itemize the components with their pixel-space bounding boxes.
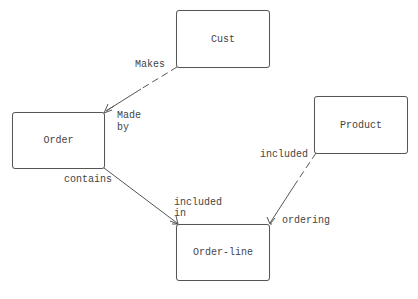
relationship-order-orderline bbox=[104, 168, 178, 224]
entity-order[interactable]: Order bbox=[12, 112, 105, 169]
entity-cust[interactable]: Cust bbox=[176, 10, 270, 68]
entity-cust-label: Cust bbox=[211, 34, 235, 45]
label-included-product: included bbox=[260, 149, 308, 161]
label-contains: contains bbox=[64, 174, 112, 186]
label-made: Made bbox=[117, 110, 141, 122]
entity-product-label: Product bbox=[340, 120, 382, 131]
entity-order-line[interactable]: Order-line bbox=[176, 224, 270, 281]
label-by: by bbox=[117, 122, 129, 134]
entity-product[interactable]: Product bbox=[314, 96, 408, 154]
label-in: in bbox=[174, 208, 186, 220]
entity-order-label: Order bbox=[43, 135, 73, 146]
label-makes: Makes bbox=[135, 59, 165, 71]
label-ordering: ordering bbox=[282, 215, 330, 227]
relationship-product-orderline bbox=[267, 153, 316, 224]
relationship-cust-order bbox=[104, 67, 177, 113]
er-diagram: Cust Order Product Order-line Makes Made… bbox=[0, 0, 418, 299]
entity-order-line-label: Order-line bbox=[193, 247, 253, 258]
